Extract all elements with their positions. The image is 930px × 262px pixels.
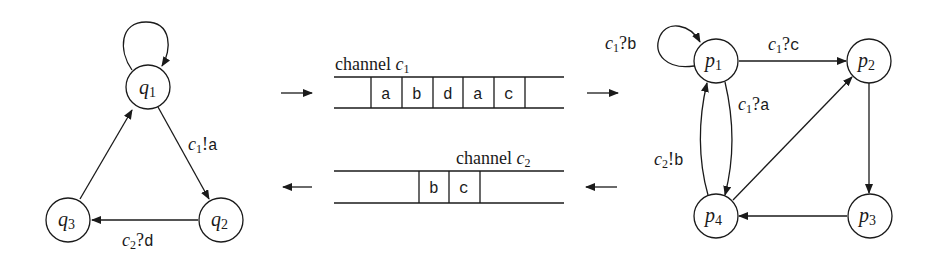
state-p3: p3 <box>848 194 892 238</box>
channel-c2: channel c2 b c <box>283 148 617 203</box>
channel-c1-cell: a <box>473 86 483 104</box>
transition-p4-p1 <box>700 83 708 195</box>
state-p2: p2 <box>847 39 891 83</box>
transition-label-c2-recv-d: c2?d <box>122 230 154 252</box>
channel-c1-cell: b <box>412 86 422 104</box>
transition-label-c1-recv-a: c1?a <box>738 94 770 116</box>
transition-q3-q1 <box>80 110 132 199</box>
transition-label-c1-recv-b: c1?b <box>605 33 637 55</box>
state-q1: q1 <box>126 65 170 109</box>
transition-q1-q1-loop <box>123 22 168 70</box>
transition-p1-p4 <box>725 82 732 195</box>
communicating-automata-diagram: q1 q2 q3 c1!a c2?d channel c1 a b d a c … <box>0 0 930 262</box>
transition-label-c2-send-b: c2!b <box>654 149 684 171</box>
channel-c2-label: channel c2 <box>456 148 530 170</box>
state-q2: q2 <box>199 198 243 242</box>
channel-c2-cell: c <box>459 180 469 198</box>
state-p1: p1 <box>694 39 738 83</box>
channel-c1-cell: a <box>381 86 391 104</box>
transition-p4-p2 <box>733 77 852 200</box>
channel-c2-cell: b <box>429 180 439 198</box>
transition-label-c1-recv-c: c1?c <box>768 34 800 56</box>
channel-c1-cell: d <box>443 86 453 104</box>
state-q3: q3 <box>46 198 90 242</box>
transition-label-c1-send-a: c1!a <box>188 134 218 156</box>
left-automaton: q1 q2 q3 c1!a c2?d <box>46 22 243 252</box>
channel-c1: channel c1 a b d a c <box>281 54 618 108</box>
right-automaton: p1 p2 p3 p4 c1?b c1?c c1?a c2!b <box>605 26 892 238</box>
state-p4: p4 <box>694 194 738 238</box>
channel-c1-cell: c <box>504 86 514 104</box>
channel-c1-label: channel c1 <box>335 54 409 76</box>
